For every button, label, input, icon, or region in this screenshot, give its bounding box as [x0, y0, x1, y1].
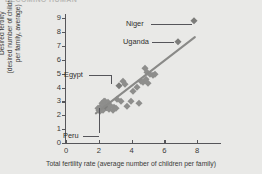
annotation-label-niger: Niger	[126, 20, 144, 27]
y-tick-label-7: 7	[57, 42, 61, 50]
y-tick-label-6: 6	[57, 56, 61, 64]
fertility-scatter-figure: BECOMING HUMAN Desired fertility (desire…	[0, 0, 262, 174]
data-point-uganda	[174, 38, 182, 46]
x-tick-label-8: 8	[195, 147, 199, 155]
y-tick-label-3: 3	[57, 98, 61, 106]
leader-line-h-peru	[83, 136, 99, 137]
leader-line-niger	[151, 24, 192, 25]
x-axis-title: Total fertility rate (average number of …	[0, 160, 262, 167]
x-tick-2	[99, 140, 100, 144]
y-tick-label-1: 1	[57, 125, 61, 133]
y-tick-2	[62, 115, 66, 116]
y-tick-0	[62, 143, 66, 144]
annotation-label-egypt: Egypt	[64, 71, 83, 78]
y-tick-6	[62, 60, 66, 61]
y-tick-label-2: 2	[57, 111, 61, 119]
x-tick-label-6: 6	[162, 147, 166, 155]
x-tick-label-0: 0	[64, 147, 68, 155]
leader-line-h-egypt	[89, 75, 111, 76]
plot-area: 0123456789 02468 NigerUgandaEgyptPeru	[66, 14, 212, 143]
leader-line-h-uganda	[152, 42, 174, 43]
x-axis-line	[65, 143, 221, 144]
y-tick-label-8: 8	[57, 28, 61, 36]
y-axis-title-line-3: per family, average)	[14, 0, 22, 92]
y-tick-label-4: 4	[57, 84, 61, 92]
y-axis-line	[65, 14, 66, 144]
data-point	[113, 104, 119, 110]
data-point	[152, 70, 158, 76]
y-tick-3	[62, 101, 66, 102]
y-axis-title-line-2: (desired number of children	[6, 0, 14, 92]
data-point	[128, 97, 134, 103]
data-point	[145, 79, 151, 85]
x-tick-0	[66, 140, 67, 144]
y-tick-9	[62, 18, 66, 19]
y-tick-label-0: 0	[57, 139, 61, 147]
annotation-label-uganda: Uganda	[123, 38, 149, 45]
x-tick-label-4: 4	[129, 147, 133, 155]
x-tick-4	[132, 140, 133, 144]
y-axis-title: Desired fertility (desired number of chi…	[0, 0, 22, 92]
leader-line-v-egypt	[111, 75, 112, 85]
y-tick-label-5: 5	[57, 70, 61, 78]
x-tick-6	[164, 140, 165, 144]
leader-line-v-peru	[99, 108, 100, 133]
x-tick-8	[197, 140, 198, 144]
y-tick-7	[62, 46, 66, 47]
annotation-label-peru: Peru	[63, 132, 79, 139]
x-tick-label-2: 2	[97, 147, 101, 155]
y-tick-4	[62, 88, 66, 89]
data-point	[118, 97, 124, 103]
data-point	[134, 84, 140, 90]
y-tick-label-9: 9	[57, 14, 61, 22]
y-tick-8	[62, 32, 66, 33]
data-point	[123, 103, 129, 109]
data-point	[136, 100, 142, 106]
